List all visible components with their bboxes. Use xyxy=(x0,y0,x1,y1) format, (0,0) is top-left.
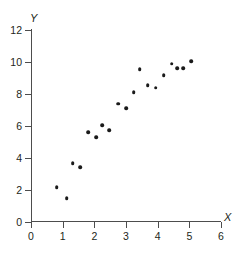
y-axis-tick-label: 0 xyxy=(0,217,22,227)
data-point xyxy=(170,62,174,66)
y-axis-tick xyxy=(25,94,31,95)
y-axis-title: Y xyxy=(30,12,37,24)
x-axis-tick xyxy=(221,222,222,228)
x-axis-tick xyxy=(158,222,159,228)
data-point xyxy=(146,83,150,87)
y-axis-tick xyxy=(25,190,31,191)
x-axis-tick-label: 5 xyxy=(179,230,199,242)
x-axis-tick xyxy=(63,222,64,228)
data-point xyxy=(138,67,142,71)
data-point xyxy=(182,66,186,70)
data-point xyxy=(132,90,136,94)
x-axis-title: X xyxy=(224,211,231,223)
y-axis-tick-label: 12 xyxy=(0,25,22,35)
x-axis-tick-label: 0 xyxy=(21,230,41,242)
data-point xyxy=(65,196,69,200)
y-axis-line xyxy=(31,29,32,222)
y-axis-tick-label: 4 xyxy=(0,153,22,163)
x-axis-tick-label: 3 xyxy=(116,230,136,242)
x-axis-tick xyxy=(31,222,32,228)
data-point xyxy=(162,73,166,77)
data-point xyxy=(154,86,158,90)
y-axis-tick xyxy=(25,158,31,159)
data-point xyxy=(94,135,98,139)
y-axis-tick xyxy=(25,126,31,127)
x-axis-tick xyxy=(126,222,127,228)
y-axis-tick-label: 2 xyxy=(0,185,22,195)
scatter-plot-figure: Y X 0246810120123456 xyxy=(0,0,243,257)
y-axis-tick-label: 6 xyxy=(0,121,22,131)
x-axis-tick-label: 1 xyxy=(53,230,73,242)
data-point xyxy=(107,128,111,132)
data-point xyxy=(87,130,91,134)
data-point xyxy=(176,66,180,70)
data-point xyxy=(189,59,193,63)
x-axis-tick-label: 4 xyxy=(148,230,168,242)
data-point xyxy=(101,123,105,127)
x-axis-tick xyxy=(94,222,95,228)
data-point xyxy=(55,185,59,189)
data-point xyxy=(71,161,75,165)
x-axis-tick-label: 6 xyxy=(211,230,231,242)
data-point xyxy=(124,106,128,110)
data-point xyxy=(116,102,120,106)
y-axis-tick-label: 10 xyxy=(0,57,22,67)
data-point xyxy=(79,165,83,169)
x-axis-tick-label: 2 xyxy=(84,230,104,242)
y-axis-tick-label: 8 xyxy=(0,89,22,99)
x-axis-tick xyxy=(189,222,190,228)
y-axis-tick xyxy=(25,62,31,63)
y-axis-tick xyxy=(25,30,31,31)
